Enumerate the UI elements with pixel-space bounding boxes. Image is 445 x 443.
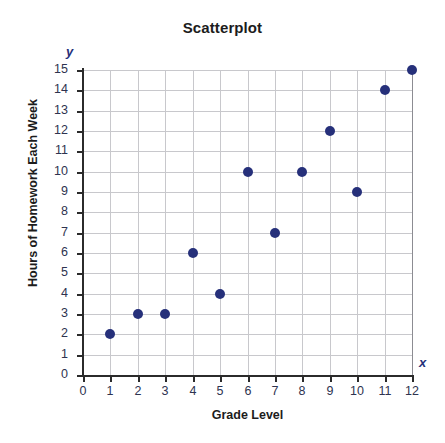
x-axis-tick: [275, 375, 277, 382]
x-axis-letter: x: [419, 355, 426, 370]
x-axis-tick-label: 7: [260, 384, 290, 398]
y-axis-tick: [77, 334, 84, 336]
x-axis-tick-label: 10: [342, 384, 372, 398]
y-axis-letter: y: [66, 44, 73, 59]
data-point: [160, 309, 170, 319]
x-axis-tick-label: 0: [68, 384, 98, 398]
x-axis-tick: [412, 375, 414, 382]
y-axis-tick-label: 11: [38, 143, 68, 157]
x-axis-tick: [110, 375, 112, 382]
x-axis-tick-label: 1: [95, 384, 125, 398]
y-axis-tick: [77, 90, 84, 92]
gridline-vertical: [357, 70, 358, 375]
x-axis-tick-label: 12: [397, 384, 427, 398]
y-axis-tick-label: 5: [38, 265, 68, 279]
y-axis-tick: [77, 111, 84, 113]
gridline-vertical: [412, 70, 413, 375]
y-axis-tick: [77, 273, 84, 275]
x-axis-title: Grade Level: [83, 408, 412, 422]
x-axis-tick: [165, 375, 167, 382]
y-axis-tick: [77, 233, 84, 235]
y-axis-tick: [77, 131, 84, 133]
chart-title: Scatterplot: [0, 19, 445, 36]
data-point: [380, 85, 390, 95]
y-axis-tick-label: 9: [38, 184, 68, 198]
y-axis-tick-label: 3: [38, 306, 68, 320]
y-axis-tick-label: 6: [38, 245, 68, 259]
y-axis-tick-label: 15: [38, 62, 68, 76]
data-point: [352, 187, 362, 197]
x-axis-tick-label: 11: [370, 384, 400, 398]
y-axis-tick-label: 4: [38, 286, 68, 300]
data-point: [188, 248, 198, 258]
x-axis-tick: [193, 375, 195, 382]
data-point: [133, 309, 143, 319]
data-point: [325, 126, 335, 136]
y-axis-tick: [77, 294, 84, 296]
y-axis-tick-label: 8: [38, 204, 68, 218]
plot-area: [83, 70, 412, 375]
y-axis-tick: [77, 151, 84, 153]
gridline-vertical: [302, 70, 303, 375]
y-axis-tick: [77, 212, 84, 214]
x-axis-tick-label: 6: [233, 384, 263, 398]
gridline-vertical: [330, 70, 331, 375]
x-axis-tick: [385, 375, 387, 382]
y-axis-tick: [77, 253, 84, 255]
gridline-vertical: [275, 70, 276, 375]
gridline-vertical: [385, 70, 386, 375]
data-point: [215, 289, 225, 299]
y-axis-tick: [77, 172, 84, 174]
x-axis-tick: [357, 375, 359, 382]
x-axis-tick-label: 8: [287, 384, 317, 398]
data-point: [243, 167, 253, 177]
x-axis-tick-label: 4: [178, 384, 208, 398]
gridline-vertical: [165, 70, 166, 375]
data-point: [407, 65, 417, 75]
y-axis-tick-label: 12: [38, 123, 68, 137]
x-axis-tick-label: 2: [123, 384, 153, 398]
y-axis-tick: [77, 70, 84, 72]
data-point: [105, 329, 115, 339]
y-axis-tick: [77, 314, 84, 316]
y-axis-tick-label: 2: [38, 326, 68, 340]
y-axis-tick-label: 7: [38, 225, 68, 239]
gridline-vertical: [138, 70, 139, 375]
x-axis-tick: [138, 375, 140, 382]
x-axis-tick: [83, 375, 85, 382]
data-point: [297, 167, 307, 177]
x-axis-tick-label: 9: [315, 384, 345, 398]
gridline-vertical: [193, 70, 194, 375]
gridline-vertical: [248, 70, 249, 375]
y-axis-line: [82, 68, 84, 377]
y-axis-tick-label: 1: [38, 347, 68, 361]
y-axis-tick-label: 13: [38, 103, 68, 117]
x-axis-tick: [330, 375, 332, 382]
x-axis-tick: [248, 375, 250, 382]
gridline-vertical: [220, 70, 221, 375]
x-axis-tick-label: 5: [205, 384, 235, 398]
scatterplot-figure: Scatterplot y x Hours of Homework Each W…: [0, 0, 445, 443]
x-axis-tick-label: 3: [150, 384, 180, 398]
x-axis-tick: [220, 375, 222, 382]
y-axis-tick-label: 14: [38, 82, 68, 96]
y-axis-tick: [77, 355, 84, 357]
y-axis-tick: [77, 192, 84, 194]
x-axis-tick: [302, 375, 304, 382]
y-axis-tick-label: 10: [38, 164, 68, 178]
data-point: [270, 228, 280, 238]
y-axis-tick-label: 0: [38, 367, 68, 381]
